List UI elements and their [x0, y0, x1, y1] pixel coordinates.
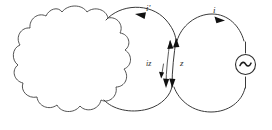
label-branch-impedance: z — [179, 58, 184, 68]
shared-branch — [159, 38, 179, 88]
cloud-network-outline — [13, 6, 130, 112]
right-loop-lower-arc — [174, 87, 245, 112]
branch-arrowhead-bottom-right — [169, 79, 175, 88]
branch-arrowhead-top-left — [167, 40, 173, 49]
middle-loop-current-arrowhead — [135, 12, 146, 19]
circuit-svg: i' i iz z — [0, 0, 272, 130]
branch-arrowhead-top-right — [173, 38, 179, 48]
right-loop — [174, 14, 246, 112]
label-branch-current: iz — [146, 59, 152, 68]
branch-arrowhead-bottom-left — [163, 79, 169, 88]
label-right-loop-current: i — [213, 5, 216, 15]
cloud-network — [13, 6, 130, 112]
circuit-diagram: i' i iz z — [0, 0, 272, 130]
right-loop-upper-arc — [177, 14, 244, 41]
branch-current-direction-arrowhead — [159, 72, 164, 79]
label-left-loop-current: i' — [146, 3, 152, 13]
right-loop-current-arrowhead — [215, 17, 226, 24]
ac-source — [236, 55, 256, 75]
